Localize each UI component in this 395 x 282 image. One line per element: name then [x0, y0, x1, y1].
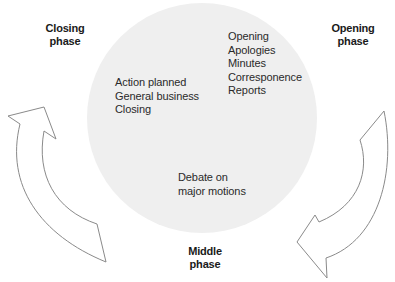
list-item: Debate on — [178, 171, 246, 185]
list-item: General business — [115, 90, 199, 104]
list-item: Corresponence — [228, 71, 302, 85]
list-item: Apologies — [228, 44, 302, 58]
opening-items-list: Opening Apologies Minutes Corresponence … — [228, 30, 302, 98]
list-item: Closing — [115, 103, 199, 117]
opening-phase-label: Opening phase — [325, 22, 381, 48]
list-item: Reports — [228, 84, 302, 98]
list-item: Opening — [228, 30, 302, 44]
meeting-cycle-diagram: Closing phase Opening phase Middle phase… — [0, 0, 395, 282]
middle-items-list: Debate on major motions — [178, 171, 246, 198]
middle-phase-label: Middle phase — [180, 245, 230, 271]
list-item: Minutes — [228, 57, 302, 71]
closing-items-list: Action planned General business Closing — [115, 76, 199, 117]
list-item: Action planned — [115, 76, 199, 90]
closing-phase-label: Closing phase — [40, 22, 90, 48]
list-item: major motions — [178, 185, 246, 199]
